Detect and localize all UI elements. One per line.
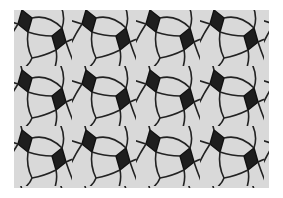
- tessellation-pattern: [14, 10, 269, 188]
- tessellation-image: [14, 10, 269, 188]
